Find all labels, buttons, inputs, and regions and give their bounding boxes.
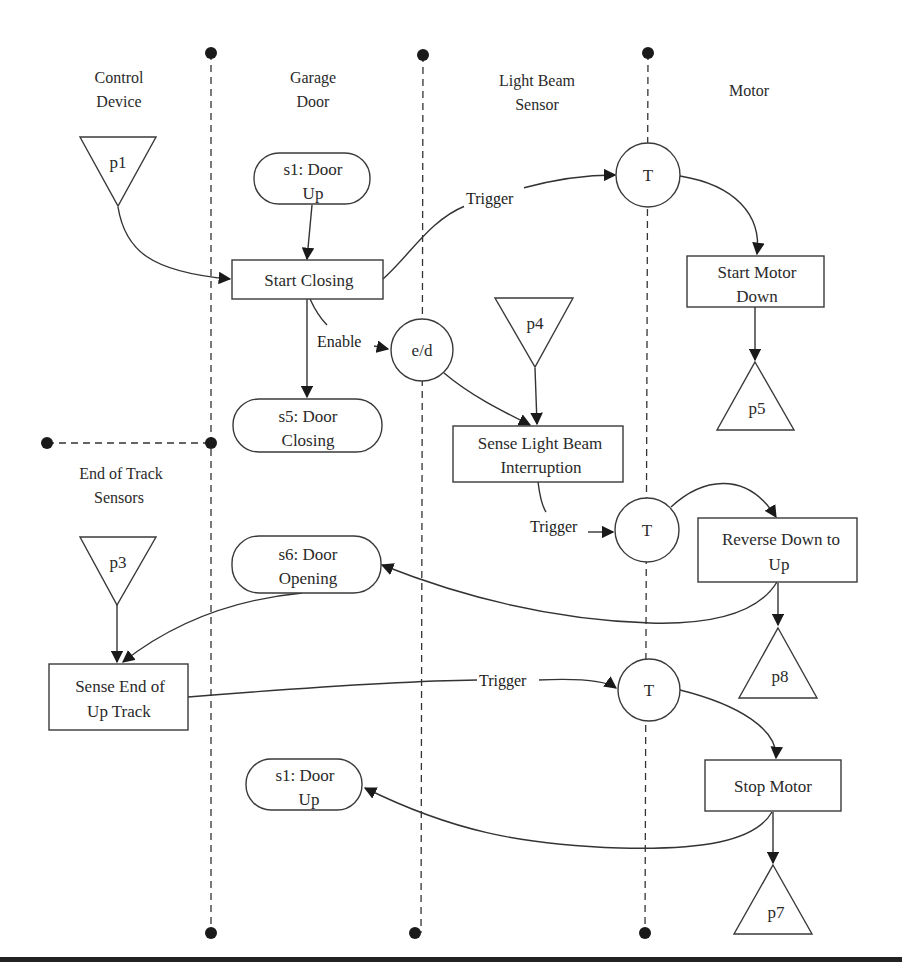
state-label: Opening [279, 569, 338, 588]
place-label: p7 [768, 903, 786, 922]
state-label: Up [299, 790, 320, 809]
lane-endpoint-dot [409, 927, 421, 939]
lane-title-light-beam-sensor: Light Beam [499, 72, 576, 90]
lane-endpoint-dot [205, 437, 217, 449]
lane-endpoint-dot [417, 49, 429, 61]
trigger-connector-2[interactable]: T [615, 498, 679, 562]
place-label: p1 [110, 153, 127, 172]
edge-trigger-1-to-start-motor-down [680, 176, 758, 254]
edge-p1-to-start-closing [118, 207, 230, 279]
edge-start-closing-to-trigger-1 [383, 206, 465, 279]
lane-title-motor: Motor [729, 82, 770, 99]
place-label: p5 [749, 399, 766, 418]
lane-title-end-of-track-sensors: End of Track [79, 465, 163, 482]
input-place-p1[interactable]: p1 [80, 137, 156, 206]
edge-sense-end-of-track-to-trigger-3 [188, 680, 477, 697]
activity-sense-light-beam-interruption[interactable]: Sense Light Beam Interruption [453, 426, 623, 482]
state-label: s1: Door [275, 766, 334, 785]
activity-label: Reverse Down to [722, 530, 840, 549]
activity-stop-motor[interactable]: Stop Motor [705, 760, 841, 811]
place-label: p3 [110, 553, 127, 572]
output-place-p8[interactable]: p8 [739, 628, 817, 698]
lane-endpoint-dot [642, 47, 654, 59]
lane-endpoint-dot [41, 437, 53, 449]
edge-ed-to-sense-light-beam [444, 373, 530, 425]
activity-label: Down [736, 287, 778, 306]
edge-label-enable: Enable [317, 333, 361, 350]
activity-reverse-down-to-up[interactable]: Reverse Down to Up [698, 518, 857, 582]
edge-label-trigger: Trigger [466, 190, 514, 208]
edge-p4-to-sense-light-beam [535, 368, 537, 424]
triangle-icon [739, 628, 817, 698]
trigger-connector-1[interactable]: T [616, 143, 680, 207]
trigger-connector-3[interactable]: T [618, 659, 680, 721]
state-s1-door-up-final[interactable]: s1: Door Up [246, 759, 362, 810]
edge-sense-light-beam-to-trigger-2 [538, 482, 546, 512]
activity-start-motor-down[interactable]: Start Motor Down [687, 256, 824, 307]
connector-label: e/d [412, 341, 433, 360]
state-label: Up [303, 184, 324, 203]
triangle-icon [717, 362, 794, 430]
connector-label: T [642, 521, 653, 540]
activity-label: Sense End of [75, 677, 165, 696]
lane-titles: Control Device Garage Door Light Beam Se… [79, 69, 769, 506]
activity-start-closing[interactable]: Start Closing [232, 260, 383, 299]
edge-trigger-3-to-t3 [538, 679, 616, 688]
edge-label-trigger: Trigger [530, 518, 578, 536]
edge-s6-to-sense-end-of-track [123, 593, 302, 662]
state-s6-door-opening[interactable]: s6: Door Opening [232, 536, 381, 593]
state-label: s6: Door [278, 545, 337, 564]
activity-label: Up Track [87, 702, 151, 721]
enable-disable-connector[interactable]: e/d [391, 319, 453, 381]
lane-endpoint-dot [639, 927, 651, 939]
activity-label: Interruption [500, 458, 582, 477]
output-place-p5[interactable]: p5 [717, 362, 794, 430]
lane-title-light-beam-sensor: Sensor [515, 96, 559, 113]
edge-start-closing-to-trigger-1 [523, 175, 615, 188]
lane-title-garage-door: Garage [290, 69, 336, 87]
triangle-icon [734, 865, 812, 934]
state-s5-door-closing[interactable]: s5: Door Closing [233, 399, 382, 452]
state-label: Closing [282, 431, 335, 450]
lane-endpoint-dot [205, 927, 217, 939]
activity-sense-end-of-up-track[interactable]: Sense End of Up Track [49, 664, 188, 730]
lane-title-garage-door: Door [297, 93, 331, 110]
output-place-p7[interactable]: p7 [734, 865, 812, 934]
edge-trigger-3-to-stop-motor [680, 690, 776, 758]
activity-label: Up [769, 555, 790, 574]
activity-label: Stop Motor [734, 777, 812, 796]
state-label: s5: Door [278, 407, 337, 426]
place-label: p8 [772, 667, 789, 686]
lane-title-control-device: Device [96, 93, 141, 110]
activity-label: Sense Light Beam [478, 434, 603, 453]
state-s1-door-up[interactable]: s1: Door Up [254, 153, 370, 204]
connector-label: T [643, 166, 654, 185]
edges [117, 175, 778, 863]
place-label: p4 [527, 314, 545, 333]
lane-title-end-of-track-sensors: Sensors [94, 489, 144, 506]
bottom-rule [0, 957, 902, 962]
input-place-p4[interactable]: p4 [495, 298, 573, 367]
edge-trigger-2-to-reverse [671, 483, 776, 517]
swimlane-diagram: Control Device Garage Door Light Beam Se… [0, 0, 902, 979]
activity-label: Start Motor [718, 263, 797, 282]
lane-endpoint-dot [205, 47, 217, 59]
input-place-p3[interactable]: p3 [80, 537, 156, 605]
activity-label: Start Closing [264, 271, 354, 290]
connector-label: T [644, 681, 655, 700]
edge-label-trigger: Trigger [479, 672, 527, 690]
edge-start-closing-to-enable [310, 299, 327, 325]
edge-enable-to-ed [374, 346, 388, 349]
edge-s1-to-start-closing [307, 205, 312, 259]
state-label: s1: Door [283, 160, 342, 179]
lane-title-control-device: Control [95, 69, 144, 86]
lane-divider-2 [421, 55, 423, 933]
